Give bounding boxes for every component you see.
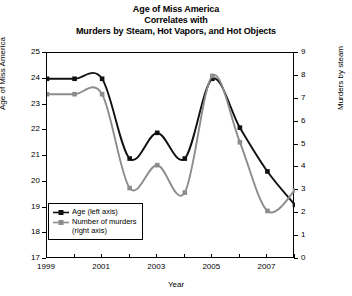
y-left-tick-label: 24 <box>16 73 40 82</box>
data-point-marker <box>265 209 270 214</box>
y-left-tick-label: 23 <box>16 99 40 108</box>
data-point-marker <box>238 140 243 145</box>
legend-item-murders: Number of murders (right axis) <box>53 217 137 236</box>
y-right-tick-label: 9 <box>301 47 305 56</box>
data-point-marker <box>182 190 187 195</box>
data-point-marker <box>47 92 49 97</box>
y-left-tickmark <box>42 258 46 259</box>
legend-swatch-murders <box>53 220 69 225</box>
y-right-tick-label: 2 <box>301 207 305 216</box>
data-point-marker <box>47 76 49 81</box>
y-left-tick-label: 17 <box>16 253 40 262</box>
legend-label-murders-line-1: Number of murders <box>72 217 137 226</box>
chart-legend: Age (left axis) Number of murders (right… <box>48 203 143 240</box>
y-left-tick-label: 22 <box>16 124 40 133</box>
y-left-tick-label: 25 <box>16 47 40 56</box>
y-left-tick-label: 20 <box>16 176 40 185</box>
legend-item-age: Age (left axis) <box>53 207 137 217</box>
data-point-marker <box>293 203 295 208</box>
data-point-marker <box>293 188 295 193</box>
y-left-tick-label: 21 <box>16 150 40 159</box>
x-tick-label: 2007 <box>252 262 280 271</box>
x-tick-label: 2003 <box>142 262 170 271</box>
x-axis-label: Year <box>0 280 352 289</box>
x-tick-label: 1999 <box>32 262 60 271</box>
series-age <box>47 73 295 207</box>
y-right-tick-label: 3 <box>301 184 305 193</box>
chart-title-line-1: Age of Miss America <box>0 4 352 15</box>
legend-label-age: Age (left axis) <box>72 207 118 217</box>
data-point-marker <box>72 76 77 81</box>
y-right-tick-label: 0 <box>301 253 305 262</box>
data-point-marker <box>127 156 132 161</box>
data-point-marker <box>100 76 105 81</box>
y-right-tick-label: 8 <box>301 70 305 79</box>
y-right-tick-label: 7 <box>301 93 305 102</box>
y-right-tick-label: 4 <box>301 161 305 170</box>
chart-title-line-3: Murders by Steam, Hot Vapors, and Hot Ob… <box>0 26 352 37</box>
y-right-tick-label: 6 <box>301 116 305 125</box>
y-left-tick-label: 18 <box>16 227 40 236</box>
y-axis-left-label: Age of Miss America <box>0 37 7 110</box>
data-point-marker <box>155 163 160 168</box>
y-axis-right-label: Murders by steam <box>336 46 345 110</box>
data-point-marker <box>127 186 132 191</box>
x-tick-label: 2001 <box>87 262 115 271</box>
data-point-marker <box>182 156 187 161</box>
data-point-marker <box>155 131 160 136</box>
chart-title: Age of Miss America Correlates with Murd… <box>0 4 352 37</box>
y-right-tick-label: 5 <box>301 139 305 148</box>
y-left-tick-label: 19 <box>16 202 40 211</box>
chart-title-line-2: Correlates with <box>0 15 352 26</box>
x-tick-label: 2005 <box>197 262 225 271</box>
data-point-marker <box>210 74 215 79</box>
legend-label-murders: Number of murders (right axis) <box>72 217 137 236</box>
data-point-marker <box>100 92 105 97</box>
data-point-marker <box>265 169 270 174</box>
data-point-marker <box>238 125 243 130</box>
series-line <box>47 75 295 213</box>
chart-figure: Age of Miss America Correlates with Murd… <box>0 0 352 296</box>
legend-swatch-age <box>53 210 69 215</box>
series-murders <box>47 74 295 214</box>
legend-label-murders-line-2: (right axis) <box>72 226 107 235</box>
data-point-marker <box>72 92 77 97</box>
y-right-tick-label: 1 <box>301 230 305 239</box>
